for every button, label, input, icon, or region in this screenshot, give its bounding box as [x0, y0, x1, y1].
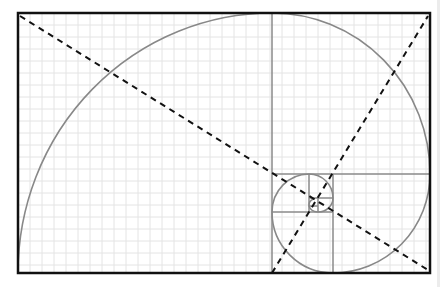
side-strip	[437, 0, 440, 287]
golden-spiral-diagram	[0, 0, 447, 287]
background-grid	[18, 13, 430, 273]
golden-spiral	[18, 13, 430, 273]
outer-frame	[18, 13, 430, 273]
